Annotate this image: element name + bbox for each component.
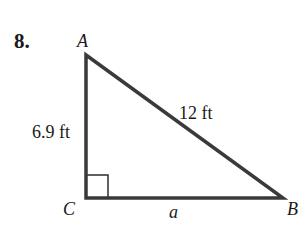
vertex-b-label: B	[287, 200, 298, 218]
vertex-c-label: C	[63, 200, 75, 218]
vertex-a-label: A	[77, 32, 88, 50]
hypotenuse-label: 12 ft	[179, 104, 213, 122]
problem-number: 8.	[14, 31, 30, 52]
right-triangle	[86, 55, 283, 198]
side-ac-label: 6.9 ft	[32, 123, 70, 141]
side-cb-label: a	[169, 203, 178, 221]
triangle-figure	[0, 0, 302, 241]
right-angle-marker	[86, 175, 108, 198]
